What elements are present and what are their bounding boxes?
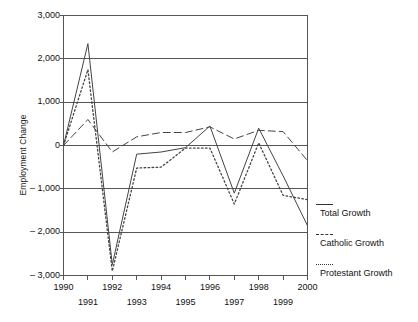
x-tick-label: 1990: [42, 282, 86, 292]
legend-line-sample-icon: [316, 234, 333, 235]
legend-entry[interactable]: Protestant Growth: [316, 261, 418, 291]
x-tick-label: 1993: [115, 297, 159, 307]
x-tick-label: 1995: [164, 297, 208, 307]
employment-change-line-chart: Employment Change 3,0002,0001,0000– 1,00…: [0, 0, 418, 322]
x-tick-label: 1992: [90, 282, 134, 292]
legend-entry[interactable]: Total Growth: [316, 201, 418, 231]
legend-line-sample-icon: [316, 264, 333, 265]
legend-line-sample-icon: [316, 204, 333, 205]
x-tick-label: 1998: [237, 282, 281, 292]
chart-legend: Total GrowthCatholic GrowthProtestant Gr…: [316, 201, 418, 291]
legend-entry[interactable]: Catholic Growth: [316, 231, 418, 261]
legend-label: Protestant Growth: [320, 268, 393, 278]
x-tick-label: 1999: [261, 297, 305, 307]
x-tick-label: 1997: [212, 297, 256, 307]
legend-label: Catholic Growth: [320, 238, 384, 248]
x-tick-label: 1994: [139, 282, 183, 292]
x-tick-label: 1991: [66, 297, 110, 307]
x-tick-label: 1996: [188, 282, 232, 292]
legend-label: Total Growth: [320, 208, 371, 218]
